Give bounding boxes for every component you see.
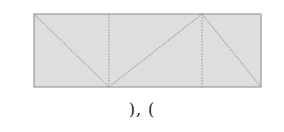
caption-text: ), (: [0, 100, 284, 119]
strip-rectangle: [34, 14, 261, 87]
